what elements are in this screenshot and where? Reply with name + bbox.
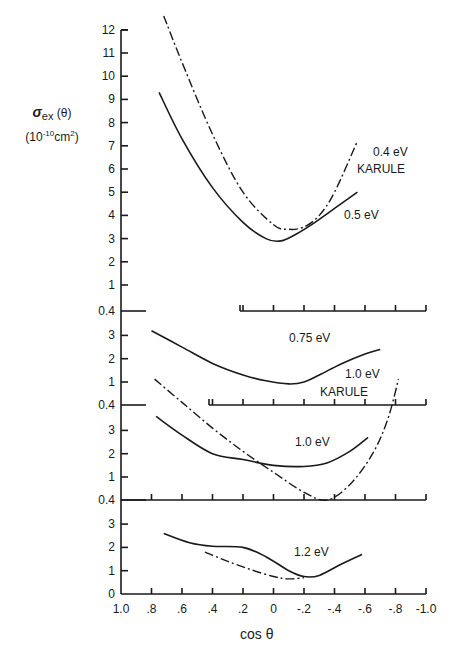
- svg-text:4: 4: [108, 208, 115, 222]
- svg-text:9: 9: [108, 92, 115, 106]
- svg-text:KARULE: KARULE: [320, 385, 368, 399]
- tick-labels: 0.41234567891011120.41230.412301231.0.8.…: [98, 23, 436, 616]
- svg-text:6: 6: [108, 162, 115, 176]
- svg-text:12: 12: [102, 23, 116, 37]
- svg-text:5: 5: [108, 185, 115, 199]
- x-axis-label: cos θ: [240, 626, 273, 642]
- curve-0-4-ev-karule: [164, 16, 358, 230]
- curve-0-5-ev: [159, 92, 357, 241]
- chart-figure: 0.41234567891011120.41230.412301231.0.8.…: [0, 0, 459, 652]
- curve-1-2-ev: [164, 533, 362, 577]
- svg-text:2: 2: [108, 352, 115, 366]
- svg-text:KARULE: KARULE: [357, 162, 405, 176]
- svg-text:-1.0: -1.0: [416, 602, 437, 616]
- svg-text:-.6: -.6: [358, 602, 372, 616]
- svg-text:7: 7: [108, 139, 115, 153]
- annotations: 0.4 eVKARULE0.5 eV0.75 eV1.0 eVKARULE1.0…: [289, 145, 408, 559]
- svg-text:3: 3: [108, 232, 115, 246]
- curve-1-0-ev: [156, 416, 368, 466]
- curves: [152, 16, 399, 579]
- svg-text:-.4: -.4: [327, 602, 341, 616]
- svg-text:.8: .8: [146, 602, 156, 616]
- svg-text:1: 1: [108, 564, 115, 578]
- svg-text:1.0: 1.0: [113, 602, 130, 616]
- svg-text:1: 1: [108, 278, 115, 292]
- svg-text:11: 11: [103, 46, 116, 60]
- svg-text:0.4: 0.4: [98, 398, 115, 412]
- svg-text:0: 0: [270, 602, 277, 616]
- svg-text:1.0 eV: 1.0 eV: [295, 435, 330, 449]
- svg-text:0.75 eV: 0.75 eV: [289, 331, 330, 345]
- svg-text:0: 0: [108, 587, 115, 601]
- svg-text:-.8: -.8: [388, 602, 402, 616]
- svg-text:-.2: -.2: [297, 602, 311, 616]
- svg-text:1: 1: [108, 375, 115, 389]
- svg-text:10: 10: [102, 69, 116, 83]
- svg-text:0.4: 0.4: [98, 493, 115, 507]
- svg-text:3: 3: [108, 328, 115, 342]
- svg-text:2: 2: [108, 255, 115, 269]
- curve-1-2-ev-dash-dot-: [205, 552, 304, 579]
- axes: [121, 30, 426, 594]
- svg-text:0.5 eV: 0.5 eV: [344, 208, 379, 222]
- svg-text:0.4: 0.4: [98, 304, 115, 318]
- svg-text:2: 2: [108, 447, 115, 461]
- svg-text:0.4 eV: 0.4 eV: [373, 145, 408, 159]
- svg-text:1: 1: [108, 470, 115, 484]
- svg-text:3: 3: [108, 517, 115, 531]
- svg-text:1.2 eV: 1.2 eV: [294, 545, 329, 559]
- svg-text:2: 2: [108, 540, 115, 554]
- svg-text:8: 8: [108, 116, 115, 130]
- svg-text:.2: .2: [238, 602, 248, 616]
- svg-text:.6: .6: [177, 602, 187, 616]
- svg-text:3: 3: [108, 423, 115, 437]
- svg-text:.4: .4: [207, 602, 217, 616]
- svg-text:1.0 eV: 1.0 eV: [345, 367, 380, 381]
